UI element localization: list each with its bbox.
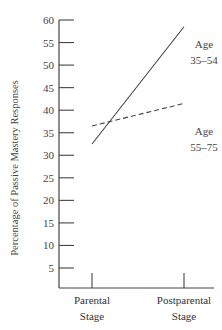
y-tick-label: 5: [49, 262, 55, 274]
y-tick-label: 55: [43, 37, 55, 49]
series-label: 35–54: [190, 54, 218, 66]
series-label: Age: [195, 125, 213, 137]
series-line-2: [92, 103, 184, 126]
y-tick-label: 20: [43, 194, 55, 206]
x-category-label: Stage: [172, 310, 197, 322]
y-axis: 51015202530354045505560: [43, 14, 74, 288]
series-label: 55–75: [190, 141, 218, 153]
x-category-label: Parental: [74, 294, 110, 306]
series-label: Age: [195, 38, 213, 50]
y-tick-label: 45: [43, 82, 55, 94]
x-category-label: Postparental: [157, 294, 211, 306]
y-tick-label: 25: [43, 172, 55, 184]
x-category-label: Stage: [80, 310, 105, 322]
y-axis-label: Percentage of Passive Mastery Responses: [9, 80, 20, 256]
y-tick-label: 30: [43, 149, 55, 161]
series-lines: [92, 27, 184, 144]
y-tick-label: 50: [43, 59, 55, 71]
line-chart: 51015202530354045505560 ParentalStagePos…: [0, 0, 222, 330]
series-line-1: [92, 27, 184, 144]
y-tick-label: 10: [43, 239, 55, 251]
y-tick-label: 40: [43, 104, 55, 116]
y-tick-label: 60: [43, 14, 55, 26]
y-tick-label: 15: [43, 217, 55, 229]
y-tick-label: 35: [43, 127, 55, 139]
series-labels: Age35–54Age55–75: [190, 38, 218, 153]
x-axis: ParentalStagePostparentalStage: [59, 273, 214, 322]
